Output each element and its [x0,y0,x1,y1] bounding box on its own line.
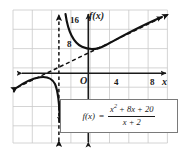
formula-denominator: x + 2 [121,118,143,128]
function-formula-box: f(x) = x2 + 8x + 20 x + 2 [60,99,178,133]
x-tick-4: 4 [114,78,119,87]
origin-label: O [80,76,87,86]
formula-numerator: x2 + 8x + 20 [108,105,155,115]
x-tick-8: 8 [150,78,155,87]
numerator-rest: + 8x + 20 [117,104,154,114]
x-axis-label: x [162,77,167,87]
y-axis-label: f(x) [89,11,104,21]
formula-fraction: x2 + 8x + 20 x + 2 [108,105,155,128]
curve-left-branch [17,77,60,122]
graph-screenshot: f(x) 16 8 -8 -16 4 8 x O f(x) = x2 + 8x … [0,0,186,152]
y-tick-16: 16 [70,16,79,25]
formula-left-side: f(x) [83,111,96,121]
y-tick-8: 8 [67,40,72,49]
curve-right-branch [66,14,163,49]
formula-equals-sign: = [99,111,104,121]
